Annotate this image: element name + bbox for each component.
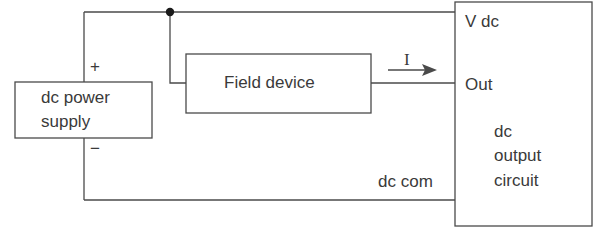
output-circuit-title-1: dc (494, 122, 512, 142)
output-circuit-title-3: circuit (494, 171, 538, 191)
plus-sign: + (90, 57, 100, 77)
field-device-label: Field device (224, 73, 315, 93)
output-circuit-title-2: output (494, 146, 541, 166)
circuit-diagram: + − dc power supply Field device I V dc … (0, 0, 604, 239)
minus-sign: − (90, 139, 100, 159)
power-supply-label-2: supply (41, 112, 90, 132)
out-terminal-label: Out (465, 75, 492, 95)
current-symbol: I (404, 50, 410, 70)
junction-dot (166, 8, 174, 16)
vdc-terminal-label: V dc (465, 12, 499, 32)
dc-com-label: dc com (378, 172, 433, 192)
wiring-lines (0, 0, 604, 239)
output-circuit-box (455, 2, 592, 226)
power-supply-label-1: dc power (41, 88, 110, 108)
field-device-input-wire (170, 12, 186, 83)
